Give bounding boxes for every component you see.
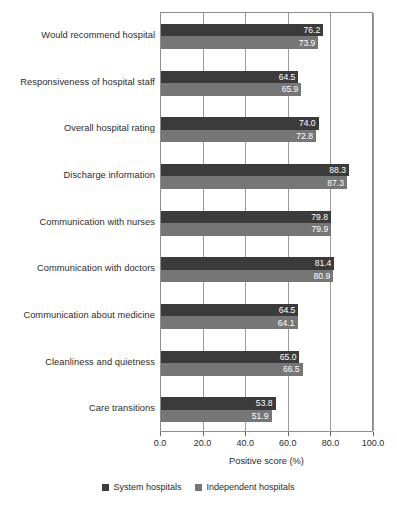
x-tickmark [330,432,331,436]
bar-value-label: 53.8 [256,399,273,408]
bar-system: 88.3 [161,164,349,177]
bar-system: 65.0 [161,351,299,364]
x-tick-label: 40.0 [236,438,254,448]
bar-value-label: 81.4 [315,259,332,268]
bar-system: 64.5 [161,304,298,317]
category-label: Care transitions [0,403,155,414]
legend-item-system-hospitals: System hospitals [102,482,181,492]
bar-system: 76.2 [161,24,323,37]
category-axis-labels: Would recommend hospitalResponsiveness o… [0,12,155,432]
bar-independent: 65.9 [161,83,301,96]
x-tickmark [245,432,246,436]
legend-label: Independent hospitals [206,482,294,492]
x-tickmark [203,432,204,436]
category-label: Overall hospital rating [0,123,155,134]
bar-value-label: 51.9 [252,411,269,420]
bar-value-label: 64.5 [279,72,296,81]
bar-value-label: 73.9 [299,38,316,47]
bar-value-label: 88.3 [329,166,346,175]
category-label: Discharge information [0,170,155,181]
bar-value-label: 65.9 [282,85,299,94]
bar-system: 64.5 [161,71,298,84]
bar-independent: 72.8 [161,130,316,143]
x-tickmark [160,432,161,436]
bar-value-label: 79.9 [311,225,328,234]
x-tick-label: 20.0 [194,438,212,448]
category-label: Responsiveness of hospital staff [0,77,155,88]
bar-system: 53.8 [161,397,276,410]
category-label: Communication with nurses [0,217,155,228]
bar-system: 74.0 [161,117,319,130]
bar-independent: 79.9 [161,223,331,236]
category-label: Cleanliness and quietness [0,357,155,368]
x-tick-label: 100.0 [362,438,385,448]
x-tick-label: 60.0 [279,438,297,448]
x-tick-label: 0.0 [154,438,167,448]
bar-value-label: 65.0 [280,352,297,361]
x-tickmark [288,432,289,436]
bar-independent: 66.5 [161,363,303,376]
bar-system: 81.4 [161,257,334,270]
bar-value-label: 74.0 [299,119,316,128]
category-label: Communication with doctors [0,263,155,274]
bar-value-label: 72.8 [296,131,313,140]
bar-independent: 51.9 [161,410,272,423]
bar-system: 79.8 [161,211,331,224]
legend-label: System hospitals [113,482,181,492]
bar-value-label: 87.3 [327,178,344,187]
x-axis-tick-labels: 0.020.040.060.080.0100.0 [0,438,397,452]
x-axis-title: Positive score (%) [160,456,373,466]
category-label: Communication about medicine [0,310,155,321]
bar-value-label: 79.8 [311,212,328,221]
legend-swatch-icon [102,484,109,491]
category-label: Would recommend hospital [0,30,155,41]
plot-area: 76.273.964.565.974.072.888.387.379.879.9… [160,12,373,432]
x-tickmark [373,432,374,436]
bar-value-label: 64.1 [278,318,295,327]
bar-independent: 73.9 [161,36,318,49]
bar-chart: Would recommend hospitalResponsiveness o… [0,0,397,510]
bar-value-label: 80.9 [314,271,331,280]
x-tick-label: 80.0 [322,438,340,448]
bars-layer: 76.273.964.565.974.072.888.387.379.879.9… [161,13,372,431]
bar-independent: 80.9 [161,270,333,283]
bar-value-label: 64.5 [279,306,296,315]
bar-value-label: 66.5 [283,365,300,374]
bar-independent: 87.3 [161,176,347,189]
bar-independent: 64.1 [161,316,298,329]
gridline [373,13,374,431]
legend: System hospitals Independent hospitals [0,482,397,492]
bar-value-label: 76.2 [304,26,321,35]
legend-swatch-icon [195,484,202,491]
legend-item-independent-hospitals: Independent hospitals [195,482,294,492]
